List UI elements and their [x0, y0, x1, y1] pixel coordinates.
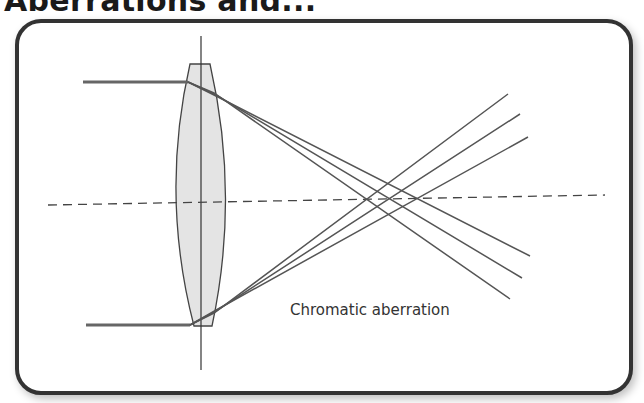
refracted-ray-top-3	[188, 82, 530, 256]
refracted-ray-bottom-1	[190, 94, 508, 325]
chromatic-aberration-diagram	[0, 0, 644, 403]
refracted-ray-bottom-3	[190, 137, 528, 325]
refracted-ray-top-1	[188, 82, 510, 299]
diagram-caption: Chromatic aberration	[290, 301, 450, 319]
optical-axis	[48, 195, 605, 205]
refracted-ray-top-2	[188, 82, 522, 278]
